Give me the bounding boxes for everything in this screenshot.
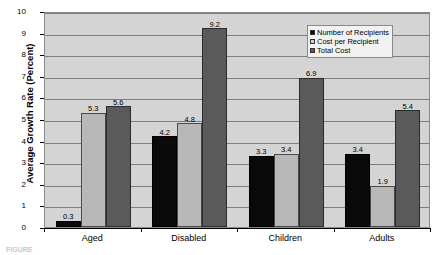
bar[interactable]: 3.4 xyxy=(274,154,299,227)
bar-value-label: 4.2 xyxy=(160,129,170,137)
x-tick-mark xyxy=(237,228,238,232)
bar-value-label: 5.3 xyxy=(88,105,98,113)
x-tick-label: Adults xyxy=(337,234,427,243)
bar-value-label: 4.8 xyxy=(185,116,195,124)
bar[interactable]: 3.3 xyxy=(249,156,274,227)
x-tick-label: Aged xyxy=(47,234,137,243)
bar-value-label: 6.9 xyxy=(306,70,316,78)
figure-container: Average Growth Rate (Percent) 0123456789… xyxy=(0,0,445,255)
bar[interactable]: 0.3 xyxy=(56,221,81,227)
bar-group: 4.24.89.2 xyxy=(152,13,227,227)
legend-label: Cost per Recipient xyxy=(317,38,379,46)
bar[interactable]: 4.8 xyxy=(177,123,202,227)
x-tick-mark xyxy=(334,228,335,232)
bar-group: 0.35.35.6 xyxy=(56,13,131,227)
legend-swatch xyxy=(310,39,315,44)
y-tick-label: 1 xyxy=(2,202,26,210)
bar-value-label: 3.4 xyxy=(353,146,363,154)
legend-swatch xyxy=(310,30,315,35)
bar-value-label: 5.4 xyxy=(403,103,413,111)
x-tick-label: Children xyxy=(240,234,330,243)
figure-caption: FIGURE xyxy=(6,246,32,253)
bar-value-label: 3.4 xyxy=(281,146,291,154)
bar[interactable]: 5.3 xyxy=(81,113,106,227)
chart-legend: Number of RecipientsCost per RecipientTo… xyxy=(307,25,393,58)
y-tick-label: 8 xyxy=(2,51,26,59)
bar[interactable]: 5.6 xyxy=(106,106,131,227)
bar-value-label: 5.6 xyxy=(113,99,123,107)
y-tick-label: 5 xyxy=(2,116,26,124)
y-tick-label: 2 xyxy=(2,181,26,189)
y-tick-label: 9 xyxy=(2,30,26,38)
y-tick-label: 10 xyxy=(2,8,26,16)
bar[interactable]: 9.2 xyxy=(202,28,227,227)
x-tick-mark xyxy=(430,228,431,232)
legend-item[interactable]: Number of Recipients xyxy=(310,28,389,37)
legend-label: Number of Recipients xyxy=(317,29,389,37)
legend-label: Total Cost xyxy=(317,47,350,55)
legend-item[interactable]: Total Cost xyxy=(310,46,389,55)
bar[interactable]: 1.9 xyxy=(370,186,395,227)
x-tick-label: Disabled xyxy=(144,234,234,243)
bar-value-label: 0.3 xyxy=(63,213,73,221)
bar-value-label: 3.3 xyxy=(256,148,266,156)
bar-value-label: 9.2 xyxy=(210,21,220,29)
x-tick-mark xyxy=(141,228,142,232)
y-tick-label: 0 xyxy=(2,224,26,232)
bar-value-label: 1.9 xyxy=(378,178,388,186)
y-tick-label: 3 xyxy=(2,159,26,167)
y-tick-label: 6 xyxy=(2,94,26,102)
legend-item[interactable]: Cost per Recipient xyxy=(310,37,389,46)
bar[interactable]: 4.2 xyxy=(152,136,177,227)
bar[interactable]: 5.4 xyxy=(395,110,420,227)
y-tick-label: 7 xyxy=(2,73,26,81)
legend-swatch xyxy=(310,48,315,53)
bar[interactable]: 6.9 xyxy=(299,78,324,227)
y-tick-label: 4 xyxy=(2,138,26,146)
x-tick-mark xyxy=(44,228,45,232)
bar[interactable]: 3.4 xyxy=(345,154,370,227)
